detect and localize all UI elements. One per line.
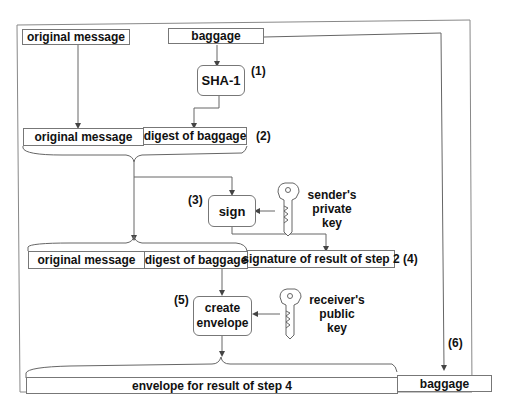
receiver-public-key-label: receiver's public key	[302, 293, 372, 335]
key-icon-receiver	[280, 289, 301, 339]
final-baggage: baggage	[397, 375, 492, 392]
envelope-result: envelope for result of step 4	[26, 377, 398, 394]
original-message-box: original message	[22, 29, 130, 45]
row2-digest-of-baggage: digest of baggage	[143, 127, 247, 145]
sign-process: sign	[208, 195, 256, 227]
row2-original-message: original message	[23, 128, 144, 146]
step-1-label: (1)	[251, 64, 266, 78]
sha1-process: SHA-1	[197, 65, 245, 96]
step-5-label: (5)	[174, 293, 189, 307]
baggage-box: baggage	[168, 28, 264, 44]
row4-original-message: original message	[28, 251, 145, 269]
step-4-label: (4)	[403, 252, 418, 266]
create-envelope-process: create envelope	[193, 296, 252, 336]
row4-signature: signature of result of step 2	[247, 250, 395, 268]
step-6-label: (6)	[448, 336, 463, 350]
key-icon-sender	[278, 183, 299, 236]
row4-digest-of-baggage: digest of baggage	[144, 251, 248, 269]
connector-lines	[0, 0, 513, 418]
step-3-label: (3)	[188, 193, 203, 207]
step-2-label: (2)	[256, 129, 271, 143]
sender-private-key-label: sender's private key	[302, 188, 362, 230]
